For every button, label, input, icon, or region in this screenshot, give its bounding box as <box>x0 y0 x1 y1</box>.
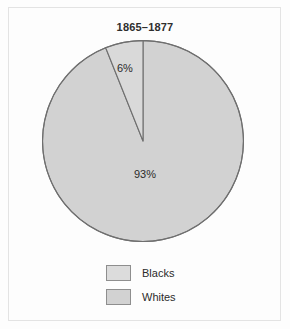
slice-label-blacks: 6% <box>117 62 133 74</box>
pie-svg <box>42 40 244 242</box>
legend-label-blacks: Blacks <box>142 267 174 279</box>
pie-chart-figure: 1865–1877 6% 93% Blacks Whites <box>0 0 290 329</box>
pie-plot-area: 6% 93% <box>42 40 244 242</box>
legend-label-whites: Whites <box>142 291 176 303</box>
legend-swatch-blacks <box>106 265 131 281</box>
legend-item-blacks[interactable]: Blacks <box>106 262 216 283</box>
legend-swatch-whites <box>106 289 131 305</box>
chart-title: 1865–1877 <box>0 21 290 33</box>
legend-item-whites[interactable]: Whites <box>106 286 216 307</box>
slice-label-whites: 93% <box>134 168 156 180</box>
legend: Blacks Whites <box>106 262 216 310</box>
